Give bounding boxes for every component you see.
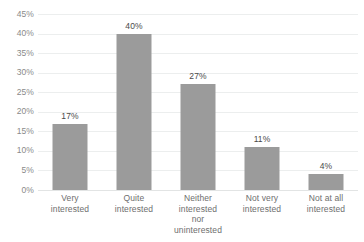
x-axis-category-label-line: nor bbox=[166, 214, 230, 225]
y-axis: 0%5%10%15%20%25%30%35%40%45% bbox=[0, 0, 34, 242]
y-axis-tick-label: 5% bbox=[0, 166, 34, 175]
x-axis: VeryinterestedQuiteinterestedNeitherinte… bbox=[38, 193, 358, 242]
y-axis-tick-label: 30% bbox=[0, 68, 34, 77]
bar-slot: 4% bbox=[294, 14, 358, 190]
x-axis-category-label-line: interested bbox=[102, 204, 166, 215]
bar[interactable] bbox=[181, 84, 216, 190]
bar-value-label: 17% bbox=[61, 112, 78, 121]
bar[interactable] bbox=[309, 174, 344, 190]
bar-slot: 27% bbox=[166, 14, 230, 190]
x-axis-category-label-line: uninterested bbox=[166, 225, 230, 236]
bar-slot: 17% bbox=[38, 14, 102, 190]
x-axis-category-label: Veryinterested bbox=[38, 193, 102, 214]
x-axis-category-label-line: interested bbox=[294, 204, 358, 215]
x-axis-category-label-line: Quite bbox=[102, 193, 166, 204]
x-axis-category-label-line: Neither bbox=[166, 193, 230, 204]
y-axis-tick-label: 0% bbox=[0, 186, 34, 195]
bar-slot: 40% bbox=[102, 14, 166, 190]
bar-value-label: 4% bbox=[320, 162, 333, 171]
y-axis-tick-label: 15% bbox=[0, 127, 34, 136]
y-axis-tick-label: 20% bbox=[0, 107, 34, 116]
bars-layer: 17%40%27%11%4% bbox=[38, 14, 358, 190]
x-axis-category-label: Not at allinterested bbox=[294, 193, 358, 214]
x-axis-category-label-line: interested bbox=[230, 204, 294, 215]
x-axis-category-label: Not veryinterested bbox=[230, 193, 294, 214]
x-axis-category-label-line: Very bbox=[38, 193, 102, 204]
y-axis-tick-label: 35% bbox=[0, 49, 34, 58]
axis-baseline bbox=[38, 190, 358, 191]
bar[interactable] bbox=[117, 34, 152, 190]
bar-value-label: 11% bbox=[254, 135, 271, 144]
y-axis-tick-label: 10% bbox=[0, 146, 34, 155]
bar[interactable] bbox=[53, 124, 88, 190]
bar-value-label: 40% bbox=[125, 22, 142, 31]
y-axis-tick-label: 25% bbox=[0, 88, 34, 97]
x-axis-category-label-line: Not very bbox=[230, 193, 294, 204]
bar-slot: 11% bbox=[230, 14, 294, 190]
y-axis-tick-label: 40% bbox=[0, 29, 34, 38]
x-axis-category-label: Quiteinterested bbox=[102, 193, 166, 214]
x-axis-category-label-line: interested bbox=[38, 204, 102, 215]
bar-chart: 0%5%10%15%20%25%30%35%40%45% 17%40%27%11… bbox=[0, 0, 364, 242]
x-axis-category-label-line: interested bbox=[166, 204, 230, 215]
x-axis-category-label: Neitherinterestednoruninterested bbox=[166, 193, 230, 235]
bar[interactable] bbox=[245, 147, 280, 190]
y-axis-tick-label: 45% bbox=[0, 10, 34, 19]
bar-value-label: 27% bbox=[189, 72, 206, 81]
x-axis-category-label-line: Not at all bbox=[294, 193, 358, 204]
